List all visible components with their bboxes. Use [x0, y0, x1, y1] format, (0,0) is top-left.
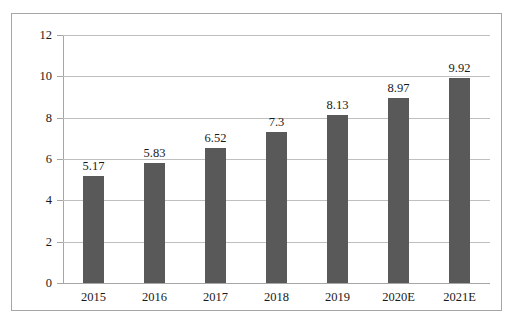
y-tick-label-12: 12 — [12, 29, 52, 42]
bar-2017 — [205, 148, 226, 283]
bar-2015 — [83, 176, 104, 283]
bar-2016 — [144, 163, 165, 283]
y-tick-label-2: 2 — [12, 236, 52, 249]
bar-value-label-2017: 6.52 — [186, 132, 246, 145]
bar-value-label-2020E: 8.97 — [369, 82, 429, 95]
bar-value-label-2016: 5.83 — [125, 147, 185, 160]
bar-value-label-2018: 7.3 — [247, 116, 307, 129]
y-tick-label-8: 8 — [12, 112, 52, 125]
bar-2020E — [388, 98, 409, 283]
y-tick-label-4: 4 — [12, 194, 52, 207]
gridline-10 — [63, 76, 490, 77]
bar-value-label-2021E: 9.92 — [430, 62, 490, 75]
bar-2019 — [327, 115, 348, 283]
gridline-0 — [63, 283, 490, 284]
y-tick-label-10: 10 — [12, 70, 52, 83]
x-tick-label-2021E: 2021E — [420, 291, 500, 304]
y-axis-tick-labels: 024681012 — [6, 0, 52, 325]
bar-value-label-2019: 8.13 — [308, 99, 368, 112]
plot-area — [63, 35, 490, 283]
bar-value-label-2015: 5.17 — [64, 160, 124, 173]
gridline-12 — [63, 35, 490, 36]
bar-2018 — [266, 132, 287, 283]
y-tick-label-6: 6 — [12, 153, 52, 166]
bar-2021E — [449, 78, 470, 283]
y-tick-label-0: 0 — [12, 277, 52, 290]
bar-chart-figure: 024681012 5.175.836.527.38.138.979.92 20… — [0, 0, 514, 325]
